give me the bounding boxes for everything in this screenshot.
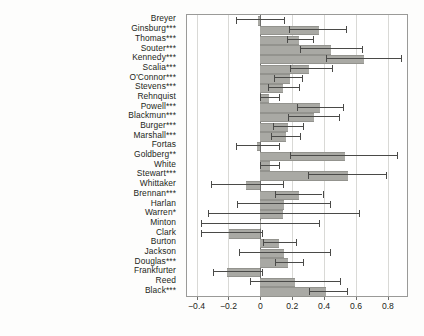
- ci-cap-lower: [211, 181, 212, 188]
- ci-cap-lower: [300, 46, 301, 53]
- ci-cap-lower: [288, 114, 289, 121]
- plot-row: [187, 277, 407, 287]
- category-label: Frankfurter: [134, 266, 176, 274]
- confidence-interval-line: [274, 77, 302, 78]
- ci-cap-upper: [284, 17, 285, 24]
- ci-cap-upper: [330, 249, 331, 256]
- ci-cap-upper: [303, 259, 304, 266]
- category-label: Powell***: [141, 102, 176, 110]
- ci-cap-lower: [287, 36, 288, 43]
- confidence-interval-line: [309, 291, 347, 292]
- ci-cap-lower: [201, 220, 202, 227]
- plot-row: [187, 25, 407, 35]
- x-tick: [197, 297, 198, 300]
- ci-cap-upper: [362, 46, 363, 53]
- confidence-interval-line: [273, 126, 303, 127]
- confidence-interval-line: [287, 39, 313, 40]
- ci-cap-lower: [290, 152, 291, 159]
- ci-cap-lower: [274, 75, 275, 82]
- plot-row: [187, 15, 407, 25]
- category-label: Warren*: [145, 208, 176, 216]
- ci-cap-upper: [343, 104, 344, 111]
- ci-cap-upper: [303, 123, 304, 130]
- category-label: Harlan: [151, 199, 176, 207]
- ci-cap-upper: [340, 278, 341, 285]
- category-label: Minton: [150, 218, 176, 226]
- category-label: Souter***: [141, 44, 176, 52]
- confidence-interval-line: [275, 194, 322, 195]
- plot-row: [187, 189, 407, 199]
- plot-row: [187, 34, 407, 44]
- plot-row: [187, 73, 407, 83]
- confidence-interval-line: [260, 97, 279, 98]
- ci-cap-lower: [275, 259, 276, 266]
- ci-cap-lower: [308, 172, 309, 179]
- confidence-interval-line: [201, 232, 262, 233]
- ci-cap-upper: [397, 152, 398, 159]
- plot-row: [187, 160, 407, 170]
- ci-cap-upper: [359, 210, 360, 217]
- plot-row: [187, 44, 407, 54]
- category-label: Whittaker: [140, 179, 176, 187]
- confidence-interval-line: [289, 29, 346, 30]
- ci-cap-lower: [289, 26, 290, 33]
- plot-row: [187, 122, 407, 132]
- ci-cap-upper: [279, 143, 280, 150]
- confidence-interval-line: [236, 145, 279, 146]
- category-label: Stevens***: [135, 82, 176, 90]
- category-label: O'Connor***: [130, 73, 176, 81]
- ci-cap-lower: [208, 210, 209, 217]
- category-label: Brennan***: [134, 189, 176, 197]
- plot-row: [187, 180, 407, 190]
- ci-cap-lower: [271, 133, 272, 140]
- confidence-interval-line: [250, 281, 340, 282]
- category-label: Thomas***: [135, 34, 176, 42]
- confidence-interval-line: [239, 252, 331, 253]
- x-axis: −0.4−0.200.20.40.60.8: [186, 297, 408, 321]
- ci-cap-upper: [332, 65, 333, 72]
- ci-cap-lower: [239, 249, 240, 256]
- category-label: Blackmun***: [128, 111, 176, 119]
- confidence-interval-line: [211, 184, 283, 185]
- category-label: White: [154, 160, 176, 168]
- category-label: Breyer: [151, 14, 176, 22]
- ci-cap-lower: [236, 143, 237, 150]
- ci-cap-lower: [309, 288, 310, 295]
- confidence-interval-line: [208, 213, 359, 214]
- ci-cap-lower: [237, 201, 238, 208]
- plot-row: [187, 151, 407, 161]
- ci-cap-upper: [330, 201, 331, 208]
- category-label: Fortas: [152, 140, 176, 148]
- ci-cap-upper: [401, 55, 402, 62]
- confidence-interval-line: [213, 271, 262, 272]
- ci-cap-upper: [302, 75, 303, 82]
- ci-cap-upper: [300, 133, 301, 140]
- ci-cap-lower: [263, 239, 264, 246]
- plot-row: [187, 170, 407, 180]
- x-tick: [292, 297, 293, 300]
- confidence-interval-line: [263, 242, 296, 243]
- plot-area: [186, 14, 408, 297]
- ci-cap-lower: [326, 55, 327, 62]
- plot-row: [187, 102, 407, 112]
- plot-row: [187, 257, 407, 267]
- category-label: Stewart***: [137, 169, 176, 177]
- ci-cap-upper: [283, 181, 284, 188]
- plot-row: [187, 267, 407, 277]
- ci-cap-upper: [323, 191, 324, 198]
- forest-plot-figure: BreyerGinsburg***Thomas***Souter***Kenne…: [0, 0, 424, 336]
- ci-cap-upper: [262, 269, 263, 276]
- ci-cap-lower: [290, 65, 291, 72]
- plot-row: [187, 228, 407, 238]
- ci-cap-upper: [279, 162, 280, 169]
- ci-cap-upper: [386, 172, 387, 179]
- confidence-interval-line: [260, 165, 279, 166]
- x-tick: [228, 297, 229, 300]
- ci-cap-lower: [260, 162, 261, 169]
- x-tick-label: 0.8: [368, 302, 408, 311]
- ci-cap-lower: [213, 269, 214, 276]
- category-label: Black***: [145, 286, 176, 294]
- plot-row: [187, 112, 407, 122]
- category-label: Douglas***: [134, 257, 176, 265]
- confidence-interval-line: [275, 262, 303, 263]
